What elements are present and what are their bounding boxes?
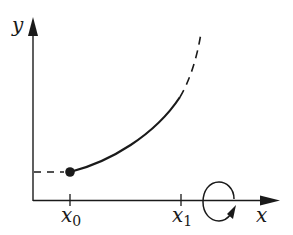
y-axis	[28, 17, 38, 201]
tick-x1-label: x1	[172, 203, 192, 229]
rotation-arrow-icon	[203, 182, 236, 221]
curve-dashed-extension	[180, 33, 201, 97]
start-point-dot	[65, 167, 75, 177]
tick-x0-label: x0	[61, 203, 81, 229]
tick-x0: x0	[61, 194, 81, 229]
x-axis-label: x	[256, 203, 267, 227]
revolution-diagram: y x x0 x1	[0, 0, 293, 235]
y-axis-label: y	[11, 13, 24, 37]
y-axis-arrow-icon	[28, 17, 38, 36]
curve-solid-segment	[70, 97, 180, 172]
tick-x1: x1	[172, 194, 192, 229]
